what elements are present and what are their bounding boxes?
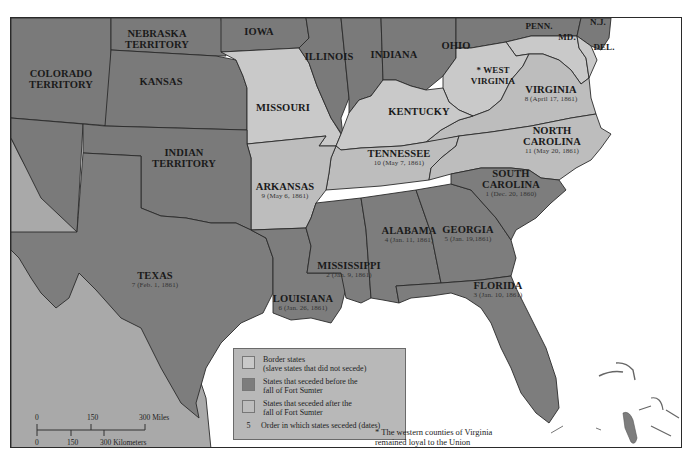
label-mississippi-date: 2 (Jan. 9, 1861) (317, 271, 381, 279)
label-mississippi: MISSISSIPPI 2 (Jan. 9, 1861) (317, 260, 381, 279)
footnote-line1: * The western counties of Virginia (375, 427, 492, 437)
scale-miles-0: 0 (35, 413, 39, 422)
label-penn: PENN. (525, 21, 552, 32)
label-del: DEL. (593, 42, 614, 53)
island-bahamas-chain (639, 398, 679, 436)
label-north-carolina-date: 11 (May 20, 1861) (523, 147, 581, 155)
label-missouri-name: MISSOURI (256, 102, 310, 113)
label-nebraska-line2: TERRITORY (125, 39, 189, 50)
label-texas-date: 7 (Feb. 1, 1861) (132, 281, 179, 289)
scale-miles-300: 300 Miles (139, 413, 169, 422)
label-west-virginia: * WEST VIRGINIA (471, 65, 515, 87)
label-kentucky-name: KENTUCKY (388, 106, 449, 117)
label-indian-territory: INDIAN TERRITORY (152, 147, 216, 169)
label-indiana-name: INDIANA (371, 49, 418, 60)
label-georgia-date: 5 (Jan. 19,1861) (442, 235, 493, 243)
label-indian-territory-line1: INDIAN (152, 147, 216, 158)
scale-bar: 0 150 300 Miles 0 150 300 Kilometers (23, 413, 183, 448)
label-north-carolina-line1: NORTH (523, 125, 581, 136)
label-arkansas-name: ARKANSAS (256, 181, 315, 192)
label-colorado-line2: TERRITORY (29, 79, 93, 90)
legend-item-border: Border states (slave states that did not… (242, 355, 399, 373)
label-florida: FLORIDA 3 (Jan. 10, 1861) (473, 280, 522, 299)
scale-km-300: 300 Kilometers (100, 438, 146, 447)
label-north-carolina-line2: CAROLINA (523, 136, 581, 147)
label-alabama-name: ALABAMA (382, 225, 437, 236)
island-bahamas-north (599, 363, 635, 380)
label-south-carolina-date: 1 (Dec. 20, 1860) (482, 190, 540, 198)
label-georgia-name: GEORGIA (442, 224, 493, 235)
label-tennessee-date: 10 (May 7, 1861) (368, 159, 431, 167)
label-kansas-name: KANSAS (139, 76, 182, 87)
label-florida-name: FLORIDA (473, 280, 522, 291)
label-south-carolina: SOUTH CAROLINA 1 (Dec. 20, 1860) (482, 168, 540, 198)
label-florida-date: 3 (Jan. 10, 1861) (473, 291, 522, 299)
label-virginia: VIRGINIA 8 (April 17, 1861) (525, 84, 578, 103)
label-west-virginia-line2: VIRGINIA (471, 76, 515, 87)
legend-border-line2: (slave states that did not secede) (263, 364, 366, 373)
florida-keys (551, 426, 601, 433)
label-kansas: KANSAS (139, 76, 182, 87)
legend-before-line2: fall of Fort Sumter (263, 386, 323, 395)
label-md: MD. (558, 32, 576, 43)
label-virginia-name: VIRGINIA (525, 84, 578, 95)
legend-swatch-before (242, 378, 255, 391)
label-west-virginia-line1: * WEST (471, 65, 515, 76)
label-alabama: ALABAMA 4 (Jan. 11, 1861) (382, 225, 437, 244)
legend-after-line1: States that seceded after the (263, 399, 352, 408)
footnote-line3: and were admitted as the (375, 446, 460, 448)
label-ohio-name: OHIO (442, 40, 471, 51)
label-iowa: IOWA (244, 26, 274, 37)
state-kansas (105, 50, 247, 130)
label-kentucky: KENTUCKY (388, 106, 449, 117)
legend-text-before: States that seceded before the fall of F… (263, 377, 358, 395)
label-arkansas: ARKANSAS 9 (May 6, 1861) (256, 181, 315, 200)
label-illinois: ILLINOIS (305, 51, 354, 62)
map-frame: COLORADO TERRITORY NEBRASKA TERRITORY KA… (10, 17, 682, 448)
label-colorado-line1: COLORADO (29, 68, 93, 79)
label-nebraska-line1: NEBRASKA (125, 28, 189, 39)
label-tennessee: TENNESSEE 10 (May 7, 1861) (368, 148, 431, 167)
label-mississippi-name: MISSISSIPPI (317, 260, 381, 271)
label-alabama-date: 4 (Jan. 11, 1861) (382, 236, 437, 244)
label-north-carolina: NORTH CAROLINA 11 (May 20, 1861) (523, 125, 581, 155)
label-louisiana-name: LOUISIANA (273, 293, 333, 304)
label-penn-name: PENN. (525, 21, 552, 32)
label-louisiana: LOUISIANA 6 (Jan. 26, 1861) (273, 293, 333, 312)
scale-km-0: 0 (35, 438, 39, 447)
legend-item-after: States that seceded after the fall of Fo… (242, 399, 399, 417)
label-louisiana-date: 6 (Jan. 26, 1861) (273, 304, 333, 312)
label-arkansas-date: 9 (May 6, 1861) (256, 192, 315, 200)
label-missouri: MISSOURI (256, 102, 310, 113)
legend-border-line1: Border states (263, 355, 305, 364)
legend-item-before: States that seceded before the fall of F… (242, 377, 399, 395)
label-indiana: INDIANA (371, 49, 418, 60)
label-indian-territory-line2: TERRITORY (152, 158, 216, 169)
label-nebraska-territory: NEBRASKA TERRITORY (125, 28, 189, 50)
label-nj-name: N.J. (590, 17, 606, 28)
label-del-name: DEL. (593, 42, 614, 53)
legend-swatch-after (242, 400, 255, 413)
label-texas: TEXAS 7 (Feb. 1, 1861) (132, 270, 179, 289)
label-colorado-territory: COLORADO TERRITORY (29, 68, 93, 90)
legend-after-line2: fall of Fort Sumter (263, 408, 323, 417)
label-virginia-date: 8 (April 17, 1861) (525, 95, 578, 103)
label-iowa-name: IOWA (244, 26, 274, 37)
legend-text-after: States that seceded after the fall of Fo… (263, 399, 352, 417)
legend-order-symbol: 5 (242, 421, 255, 430)
island-andros (623, 412, 637, 443)
label-tennessee-name: TENNESSEE (368, 148, 431, 159)
scale-km-150: 150 (67, 438, 78, 447)
legend-swatch-border (242, 356, 255, 369)
label-ohio: OHIO (442, 40, 471, 51)
footnote: * The western counties of Virginia remai… (375, 428, 525, 448)
legend-text-border: Border states (slave states that did not… (263, 355, 366, 373)
label-md-name: MD. (558, 32, 576, 43)
label-georgia: GEORGIA 5 (Jan. 19,1861) (442, 224, 493, 243)
legend-order-label: Order in which states seceded (dates) (261, 421, 380, 430)
label-texas-name: TEXAS (132, 270, 179, 281)
legend-before-line1: States that seceded before the (263, 377, 358, 386)
label-south-carolina-line2: CAROLINA (482, 179, 540, 190)
label-south-carolina-line1: SOUTH (482, 168, 540, 179)
scale-bar-lines (23, 423, 183, 439)
